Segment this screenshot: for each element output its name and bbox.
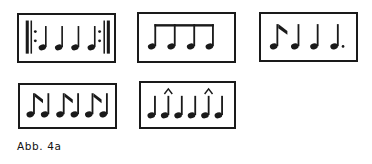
- repeat-start-dot-lower: [34, 39, 37, 42]
- eighth-pairs-notation: [20, 85, 115, 127]
- quarter-note-1: [290, 24, 299, 50]
- quarter-note-2: [54, 26, 63, 51]
- accent-mark-note-5: [205, 89, 213, 94]
- notation-box-mixed-values: [259, 12, 358, 62]
- quarter-note-4: [187, 96, 196, 119]
- beamed-eighths-notation: [139, 14, 234, 61]
- repeat-end-dot-lower: [98, 39, 101, 42]
- repeat-start-thick-barline: [26, 21, 29, 54]
- repeat-start-dot-upper: [34, 30, 37, 33]
- repeat-end-thin-barline: [103, 21, 105, 54]
- eighth-stem-1: [154, 24, 156, 46]
- notation-box-beamed-eighths: [137, 12, 236, 63]
- mixed-values-notation: [261, 14, 356, 60]
- notation-box-repeated-quarters: [17, 13, 116, 63]
- repeat-end-dot-upper: [98, 30, 101, 33]
- eighth-note-pair-1: [26, 93, 50, 118]
- dotted-quarter-note: [330, 24, 345, 50]
- eighth-note-pair-3: [84, 93, 108, 118]
- quarter-note-3: [174, 96, 183, 119]
- augmentation-dot: [342, 45, 345, 48]
- repeat-end-thick-barline: [107, 21, 110, 54]
- notation-box-eighth-pairs: [18, 83, 117, 129]
- quarter-note-6: [214, 96, 223, 119]
- eighth-note-flagged-1: [269, 24, 287, 50]
- figure-container: Abb. 4a: [0, 0, 372, 164]
- eighth-stem-2: [174, 24, 176, 46]
- quarter-note-5-accented: [200, 96, 209, 119]
- quarter-note-1: [38, 26, 47, 51]
- accented-quarters-notation: [141, 83, 234, 127]
- repeat-start-thin-barline: [31, 21, 33, 54]
- notation-box-accented-quarters: [139, 81, 236, 129]
- quarter-note-4: [87, 26, 96, 51]
- figure-caption: Abb. 4a: [17, 140, 62, 152]
- eighth-stem-3: [193, 24, 195, 46]
- quarter-note-1: [147, 96, 156, 119]
- eighth-note-pair-2: [55, 93, 79, 118]
- quarter-note-2-accented: [160, 96, 169, 119]
- eighth-note-beam: [154, 24, 213, 26]
- quarter-note-2: [309, 24, 318, 50]
- eighth-stem-4: [212, 24, 214, 46]
- accent-mark-note-2: [164, 89, 172, 94]
- repeat-measure-notation: [19, 15, 114, 61]
- quarter-note-3: [70, 26, 79, 51]
